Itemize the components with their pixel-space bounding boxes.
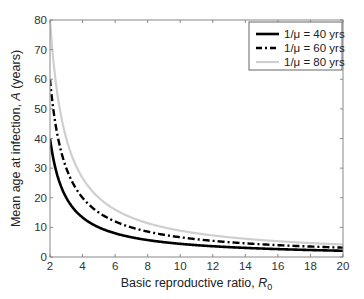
x-tick-label: 8 — [144, 260, 150, 272]
y-tick-label: 10 — [34, 221, 47, 233]
x-tick-label: 2 — [47, 260, 53, 272]
series-line-2 — [50, 79, 343, 247]
legend-label-2: 1/μ = 60 yrs — [284, 42, 345, 54]
x-tick-label: 6 — [112, 260, 118, 272]
x-axis-label: Basic reproductive ratio, R0 — [121, 276, 273, 292]
y-tick-label: 70 — [34, 44, 47, 56]
x-tick-label: 12 — [206, 260, 219, 272]
legend-label-1: 1/μ = 40 yrs — [284, 28, 345, 40]
chart-container: 246810121416182001020304050607080Basic r… — [0, 0, 364, 299]
y-tick-label: 20 — [34, 192, 47, 204]
y-tick-label: 50 — [34, 103, 47, 115]
x-tick-label: 20 — [337, 260, 350, 272]
line-chart: 246810121416182001020304050607080Basic r… — [0, 0, 364, 299]
x-tick-label: 10 — [174, 260, 187, 272]
y-tick-label: 30 — [34, 162, 47, 174]
x-tick-label: 14 — [239, 260, 252, 272]
legend: 1/μ = 40 yrs1/μ = 60 yrs1/μ = 80 yrs — [249, 22, 345, 70]
y-tick-label: 0 — [41, 251, 47, 263]
y-tick-label: 40 — [34, 133, 47, 145]
x-tick-label: 18 — [304, 260, 317, 272]
y-tick-label: 60 — [34, 73, 47, 85]
legend-label-3: 1/μ = 80 yrs — [284, 56, 345, 68]
y-tick-label: 80 — [34, 14, 47, 26]
x-tick-label: 16 — [271, 260, 284, 272]
y-axis-label: Mean age at infection, A (years) — [9, 50, 23, 227]
x-tick-label: 4 — [79, 260, 86, 272]
